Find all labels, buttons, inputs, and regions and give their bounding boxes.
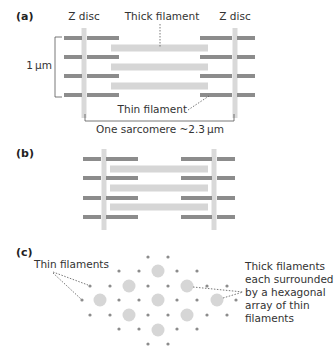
thin-filament-leader bbox=[188, 96, 209, 110]
thin-filament bbox=[237, 74, 255, 78]
thick-leader-1 bbox=[193, 287, 243, 292]
panel-b-contracted-sarcomere: (b) bbox=[16, 147, 235, 230]
thick-label-line-3: by a hexagonal bbox=[245, 286, 326, 298]
thin-filament bbox=[106, 157, 138, 161]
thick-filament bbox=[111, 64, 208, 71]
z-disc bbox=[102, 149, 107, 230]
scale-label: 1 µm bbox=[26, 59, 52, 71]
thin-filament bbox=[87, 36, 119, 40]
thick-filament-cross-section bbox=[123, 309, 136, 322]
thin-filament bbox=[200, 93, 232, 97]
thin-filament bbox=[237, 36, 255, 40]
z-disc bbox=[82, 28, 87, 118]
thin-filament bbox=[64, 93, 82, 97]
thin-filament-cross-section bbox=[166, 342, 169, 345]
thin-filament-cross-section bbox=[205, 313, 208, 316]
thin-filament bbox=[200, 36, 232, 40]
thin-filament-cross-section bbox=[117, 327, 120, 330]
thin-filament bbox=[181, 215, 212, 219]
thin-filament-cross-section bbox=[166, 255, 169, 258]
thin-filament-cross-section bbox=[225, 313, 228, 316]
thin-filament-cross-section bbox=[166, 284, 169, 287]
thick-filament bbox=[111, 45, 208, 52]
thin-filament bbox=[237, 55, 255, 59]
thin-filament bbox=[64, 74, 82, 78]
thick-filament-cross-section bbox=[152, 294, 165, 307]
thick-label-line-2: each surrounded bbox=[245, 273, 334, 285]
thin-filament-cross-section bbox=[234, 298, 237, 301]
thick-label-line-1: Thick filaments bbox=[244, 260, 325, 272]
thick-filaments-label: Thick filaments each surrounded by a hex… bbox=[244, 260, 336, 324]
thin-filament-cross-section bbox=[195, 269, 198, 272]
thick-label-line-5: filaments bbox=[245, 312, 294, 324]
thin-filament bbox=[217, 157, 235, 161]
thin-filament-cross-section bbox=[137, 327, 140, 330]
thin-filament bbox=[217, 215, 235, 219]
thin-filament bbox=[237, 93, 255, 97]
thin-filament-cross-section bbox=[117, 298, 120, 301]
panel-c-cross-section: (c) Thin filaments Thick filaments each … bbox=[16, 246, 336, 346]
thin-filament bbox=[217, 196, 235, 200]
thin-filament bbox=[83, 215, 101, 219]
thick-filament-cross-section bbox=[181, 280, 194, 293]
sarcomere-bracket bbox=[85, 114, 234, 121]
thin-filament-cross-section bbox=[80, 298, 83, 301]
thin-filament bbox=[83, 196, 101, 200]
thin-filament-cross-section bbox=[117, 269, 120, 272]
thin-filament bbox=[200, 55, 232, 59]
thin-filament-cross-section bbox=[205, 284, 208, 287]
panel-a-label: (a) bbox=[16, 10, 33, 23]
thick-filament bbox=[110, 204, 208, 211]
thin-filament-cross-section bbox=[146, 284, 149, 287]
thick-filament-label: Thick filament bbox=[124, 10, 200, 22]
z-disc-right-label: Z disc bbox=[219, 10, 251, 22]
thin-filament-label: Thin filament bbox=[117, 103, 187, 115]
thick-label-line-4: array of thin bbox=[245, 299, 310, 311]
panel-b-label: (b) bbox=[16, 147, 34, 160]
thin-filament-cross-section bbox=[195, 327, 198, 330]
panel-c-label: (c) bbox=[16, 246, 33, 259]
thin-filament bbox=[64, 55, 82, 59]
thin-filament-cross-section bbox=[146, 342, 149, 345]
thick-filament-cross-section bbox=[94, 294, 107, 307]
thin-filament-cross-section bbox=[137, 298, 140, 301]
z-disc-left-label: Z disc bbox=[68, 10, 100, 22]
thin-filament-cross-section bbox=[175, 298, 178, 301]
thin-filament bbox=[106, 176, 138, 180]
thin-filament bbox=[87, 74, 119, 78]
thick-filament-cross-section bbox=[152, 324, 165, 337]
thin-filament-cross-section bbox=[108, 313, 111, 316]
panel-b-filaments bbox=[83, 149, 235, 230]
thin-filament-cross-section bbox=[146, 313, 149, 316]
thin-filament bbox=[217, 176, 235, 180]
thin-filament-cross-section bbox=[137, 269, 140, 272]
thin-filament-cross-section bbox=[175, 269, 178, 272]
thick-leader-2 bbox=[223, 292, 243, 298]
thick-filament-cross-section bbox=[123, 280, 136, 293]
thin-filament bbox=[87, 55, 119, 59]
thick-filament-cross-section bbox=[152, 265, 165, 278]
sarcomere-diagram: (a) Z disc Thick filament Z disc 1 µm Th… bbox=[0, 0, 336, 359]
sarcomere-label: One sarcomere ~2.3 µm bbox=[96, 123, 224, 135]
thin-leader-1 bbox=[53, 272, 88, 285]
thin-filament-cross-section bbox=[108, 284, 111, 287]
thick-filament bbox=[110, 166, 208, 173]
thin-filament-cross-section bbox=[146, 255, 149, 258]
panel-a-sarcomere: (a) Z disc Thick filament Z disc 1 µm Th… bbox=[16, 10, 255, 135]
thick-filament-cross-section bbox=[181, 309, 194, 322]
thin-filaments-label: Thin filaments bbox=[33, 258, 109, 270]
thin-filament-cross-section bbox=[175, 327, 178, 330]
thin-filament bbox=[181, 157, 212, 161]
thin-filament-cross-section bbox=[88, 313, 91, 316]
thin-filament bbox=[83, 176, 101, 180]
thin-leader-2 bbox=[53, 273, 81, 299]
thin-filament-cross-section bbox=[195, 298, 198, 301]
scale-bracket bbox=[55, 37, 62, 97]
thin-filament bbox=[181, 196, 212, 200]
thin-filament bbox=[64, 36, 82, 40]
thin-filament bbox=[106, 196, 138, 200]
thick-filament-cross-section bbox=[211, 294, 224, 307]
thin-filament-cross-section bbox=[166, 313, 169, 316]
thin-filament-cross-section bbox=[88, 284, 91, 287]
thin-filament bbox=[83, 157, 101, 161]
